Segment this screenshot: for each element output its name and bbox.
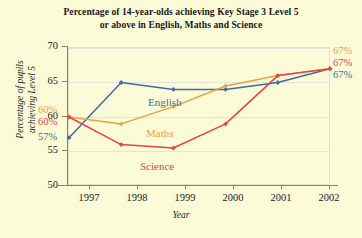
x-axis-label-1998: 1998 (117, 192, 157, 203)
x-axis-label-2002: 2002 (309, 192, 349, 203)
chart-title-line-2: or above in English, Maths and Science (0, 19, 362, 32)
plot-area (68, 47, 330, 185)
x-axis-label-2000: 2000 (213, 192, 253, 203)
y-axis-title-line-1: Percentage of pupils (15, 60, 25, 138)
marker-maths-1998 (119, 122, 124, 127)
chart-title: Percentage of 14-year-olds achieving Key… (0, 6, 362, 31)
series-label-english: English (148, 96, 182, 108)
y-axis-title-line-2: achieving Level 5 (26, 66, 36, 133)
x-axis-label-2001: 2001 (261, 192, 301, 203)
marker-english-2001 (275, 80, 280, 85)
marker-maths-2000 (223, 84, 228, 89)
line-english (69, 69, 330, 138)
x-axis-label-1997: 1997 (69, 192, 109, 203)
end-label-english: 67% (333, 69, 352, 80)
x-axis-label-1999: 1999 (165, 192, 205, 203)
marker-science-2002 (328, 66, 333, 71)
series-label-maths: Maths (146, 127, 174, 139)
start-label-maths: 60% (38, 104, 57, 115)
y-axis-label-50: 50 (18, 179, 58, 190)
marker-english-1999 (171, 87, 176, 92)
end-label-science: 67% (333, 57, 352, 68)
marker-science-1999 (171, 146, 176, 151)
line-science (69, 69, 330, 148)
end-label-maths: 67% (333, 45, 352, 56)
series-lines (69, 48, 331, 186)
chart-title-line-1: Percentage of 14-year-olds achieving Key… (0, 6, 362, 19)
y-axis-title: Percentage of pupils achieving Level 5 (15, 30, 38, 170)
start-label-science: 60% (38, 116, 57, 127)
x-axis-title: Year (0, 210, 362, 220)
start-label-english: 57% (38, 131, 57, 142)
series-label-science: Science (140, 160, 174, 172)
chart-figure: Percentage of 14-year-olds achieving Key… (0, 0, 362, 238)
